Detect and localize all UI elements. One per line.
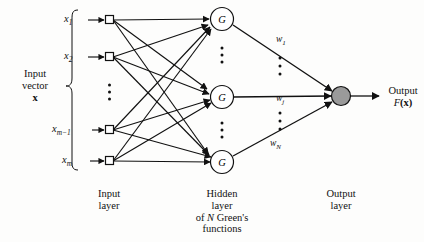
- hidden-layer-caption-line2: layer: [167, 200, 277, 212]
- input-node-x2: [106, 53, 114, 61]
- weight-ellipsis-upper-icon: [279, 57, 282, 76]
- input-column-ellipsis-icon: [108, 84, 111, 101]
- input-node-xm: [106, 157, 114, 165]
- weight-ellipsis-lower-icon: [279, 112, 282, 131]
- hidden-column-ellipsis-lower-icon: [221, 122, 224, 139]
- input-layer-caption: Input layer: [79, 188, 139, 212]
- output-layer-caption-line2: layer: [311, 200, 371, 212]
- hidden-layer-caption-line4: functions: [167, 223, 277, 235]
- input-label-xm-1: xm−1: [52, 123, 71, 137]
- input-layer-caption-line2: layer: [79, 200, 139, 212]
- hidden-node-label-Gj: G: [218, 92, 226, 103]
- output-layer-caption-line1: Output: [311, 188, 371, 200]
- input-node-xm-1: [106, 126, 114, 134]
- output-layer-caption: Output layer: [311, 188, 371, 212]
- input-vector-caption-line2: vector: [6, 80, 64, 92]
- weight-label-wj: wj: [276, 93, 284, 107]
- output-caption: Output F(x): [382, 85, 424, 109]
- input-to-hidden-connections: [113, 19, 211, 162]
- hidden-layer-caption-line1: Hidden: [167, 188, 277, 200]
- hidden-node-label-G1: G: [218, 14, 226, 25]
- input-vector-caption: Input vector x: [6, 68, 64, 103]
- hidden-layer-count-symbol: N: [207, 212, 214, 223]
- hidden-node-label-GN: G: [218, 157, 226, 168]
- hidden-layer-caption-line3: of N Green's: [167, 212, 277, 224]
- input-node-x1: [106, 16, 114, 24]
- input-vector-caption-line1: Input: [6, 68, 64, 80]
- hidden-column-ellipsis-upper-icon: [221, 47, 224, 64]
- input-entry-arrows: [88, 20, 104, 161]
- input-node-squares: [106, 16, 114, 165]
- figure-canvas: G G G x1 x2: [0, 0, 424, 242]
- input-vector-brace: [66, 10, 78, 170]
- hidden-layer-caption: Hidden layer of N Green's functions: [167, 188, 277, 235]
- output-node: [332, 87, 351, 106]
- output-function-arg: (x): [400, 97, 412, 108]
- weight-label-w1: w1: [276, 34, 286, 48]
- weight-label-wN: wN: [270, 138, 281, 152]
- output-caption-line2: F(x): [382, 97, 424, 109]
- input-vector-caption-line3: x: [6, 92, 64, 104]
- input-layer-caption-line1: Input: [79, 188, 139, 200]
- input-label-xm: xm: [62, 154, 72, 168]
- input-label-x2: x2: [64, 50, 72, 64]
- hidden-node-circles: [211, 8, 234, 174]
- output-caption-line1: Output: [382, 85, 424, 97]
- input-label-x1: x1: [64, 13, 72, 27]
